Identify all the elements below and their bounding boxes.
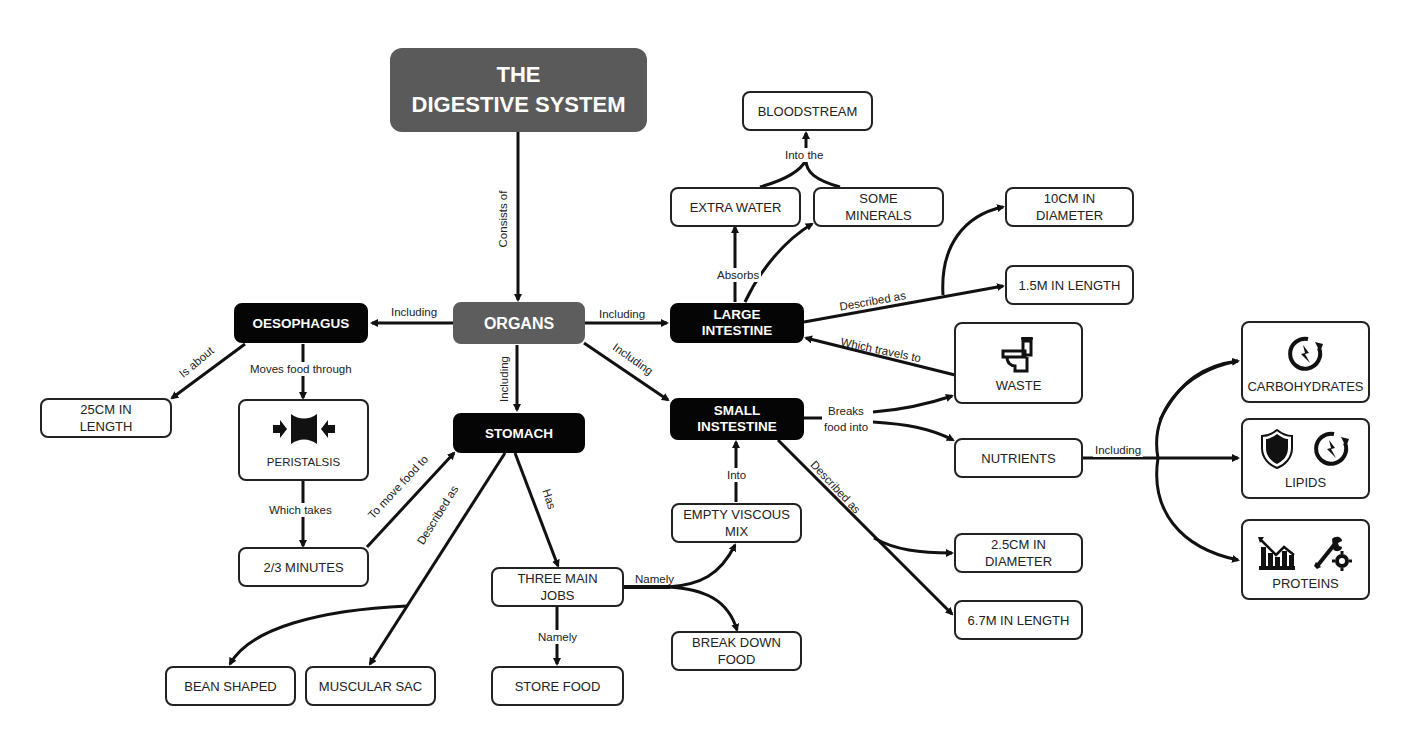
growth-chart-icon (1258, 535, 1296, 571)
carbohydrates-node: CARBOHYDRATES (1241, 321, 1370, 403)
label-into: Into (725, 468, 748, 482)
peristalsis-icon (269, 410, 339, 448)
empty-viscous-mix-line2: MIX (725, 523, 748, 540)
label-food-into: food into (822, 420, 870, 434)
toilet-icon (999, 333, 1039, 373)
lipids-label: LIPIDS (1285, 474, 1326, 491)
label-which-takes: Which takes (267, 503, 334, 517)
peristalsis-node: PERISTALSIS (238, 399, 369, 481)
small-intestine-node: SMALL INSTESTINE (670, 398, 804, 440)
break-down-food-line2: FOOD (718, 651, 756, 668)
large-intestine-line1: LARGE (713, 307, 760, 323)
small-intestine-diameter-node: 2.5CM IN DIAMETER (954, 533, 1083, 573)
small-intestine-line1: SMALL (714, 403, 761, 419)
bean-shaped-node: BEAN SHAPED (165, 666, 296, 706)
three-main-jobs-line2: JOBS (541, 587, 575, 604)
large-intestine-diameter-node: 10CM IN DIAMETER (1005, 187, 1134, 227)
extra-water-label: EXTRA WATER (690, 199, 782, 216)
nutrients-label: NUTRIENTS (981, 450, 1055, 467)
extra-water-node: EXTRA WATER (670, 187, 801, 227)
carbohydrates-label: CARBOHYDRATES (1247, 378, 1363, 395)
bloodstream-label: BLOODSTREAM (758, 103, 858, 120)
organs-node: ORGANS (453, 302, 585, 344)
oesophagus-label: OESOPHAGUS (253, 315, 350, 332)
title-line2: DIGESTIVE SYSTEM (412, 90, 626, 120)
stomach-node: STOMACH (453, 413, 585, 453)
wrench-gear-icon (1314, 535, 1354, 571)
break-down-food-line1: BREAK DOWN (692, 634, 781, 651)
large-intestine-length-label: 1.5M IN LENGTH (1019, 277, 1121, 294)
store-food-node: STORE FOOD (491, 666, 624, 706)
label-absorbs: Absorbs (715, 268, 761, 282)
label-namely-down: Namely (536, 630, 579, 644)
three-main-jobs-node: THREE MAIN JOBS (491, 567, 624, 607)
large-intestine-diameter-line1: 10CM IN (1044, 190, 1095, 207)
small-intestine-length-node: 6.7M IN LENGTH (954, 600, 1083, 640)
label-namely-right: Namely (633, 572, 676, 586)
stomach-label: STOMACH (485, 425, 553, 442)
empty-viscous-mix-line1: EMPTY VISCOUS (683, 506, 790, 523)
three-main-jobs-line1: THREE MAIN (517, 570, 597, 587)
large-intestine-node: LARGE INTESTINE (670, 303, 804, 343)
break-down-food-node: BREAK DOWN FOOD (671, 631, 802, 671)
shield-icon (1260, 428, 1294, 470)
oesophagus-length-line1: 25CM IN (80, 401, 131, 418)
title-line1: THE (497, 60, 541, 90)
label-moves-food-through: Moves food through (248, 362, 354, 376)
proteins-node: PROTEINS (1241, 519, 1370, 600)
proteins-label: PROTEINS (1272, 575, 1338, 592)
muscular-sac-node: MUSCULAR SAC (305, 666, 436, 706)
energy-cycle-icon (1312, 429, 1352, 469)
minutes-label: 2/3 MINUTES (263, 559, 343, 576)
oesophagus-length-node: 25CM IN LENGTH (40, 398, 172, 438)
small-intestine-length-label: 6.7M IN LENGTH (968, 612, 1070, 629)
waste-label: WASTE (996, 377, 1042, 394)
title-node: THE DIGESTIVE SYSTEM (390, 48, 647, 132)
energy-cycle-icon (1286, 334, 1326, 374)
label-consists-of: Consists of (496, 189, 510, 250)
store-food-label: STORE FOOD (515, 678, 601, 695)
bloodstream-node: BLOODSTREAM (742, 91, 873, 131)
some-minerals-node: SOME MINERALS (813, 187, 944, 227)
small-intestine-diameter-line1: 2.5CM IN (991, 536, 1046, 553)
label-including-right: Including (597, 307, 647, 321)
small-intestine-line2: INSTESTINE (697, 419, 777, 435)
lipids-icons (1260, 428, 1352, 470)
small-intestine-diameter-line2: DIAMETER (985, 553, 1052, 570)
organs-label: ORGANS (484, 315, 554, 332)
oesophagus-length-line2: LENGTH (80, 418, 133, 435)
waste-node: WASTE (954, 322, 1083, 404)
muscular-sac-label: MUSCULAR SAC (319, 678, 422, 695)
peristalsis-label: PERISTALSIS (267, 454, 340, 471)
proteins-icons (1258, 535, 1354, 571)
large-intestine-length-node: 1.5M IN LENGTH (1005, 265, 1134, 305)
some-minerals-line1: SOME (859, 190, 897, 207)
label-including-left: Including (389, 305, 439, 319)
lipids-node: LIPIDS (1241, 418, 1370, 499)
label-breaks: Breaks (826, 404, 866, 418)
minutes-node: 2/3 MINUTES (238, 547, 369, 587)
label-including-nutrients: Including (1093, 443, 1143, 457)
nutrients-node: NUTRIENTS (954, 438, 1083, 478)
label-into-the: Into the (783, 148, 825, 162)
empty-viscous-mix-node: EMPTY VISCOUS MIX (671, 503, 802, 543)
large-intestine-diameter-line2: DIAMETER (1036, 207, 1103, 224)
large-intestine-line2: INTESTINE (702, 323, 773, 339)
label-including-down: Including (497, 354, 511, 404)
some-minerals-line2: MINERALS (845, 207, 911, 224)
oesophagus-node: OESOPHAGUS (234, 303, 368, 343)
bean-shaped-label: BEAN SHAPED (184, 678, 276, 695)
